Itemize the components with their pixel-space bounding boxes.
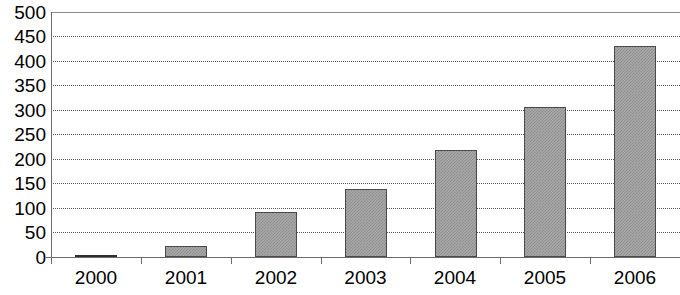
y-tick-label: 350 (2, 76, 46, 95)
gridline-450 (51, 36, 680, 37)
gridline-200 (51, 159, 680, 160)
bar-2004 (435, 150, 477, 257)
x-tick (590, 257, 591, 264)
y-tick-label: 500 (2, 3, 46, 22)
bar-2002 (255, 212, 297, 257)
x-tick (141, 257, 142, 264)
x-tick (231, 257, 232, 264)
x-tick-label-2006: 2006 (590, 267, 680, 288)
y-tick-label: 50 (2, 223, 46, 242)
gridline-500 (51, 12, 680, 13)
y-axis: 500 450 400 350 300 250 200 150 100 50 0 (0, 0, 46, 295)
x-tick-label-2004: 2004 (410, 267, 500, 288)
x-tick-label-2003: 2003 (321, 267, 410, 288)
y-tick-label: 400 (2, 52, 46, 71)
bar-2000 (75, 255, 117, 257)
y-tick-label: 200 (2, 150, 46, 169)
x-tick-label-2001: 2001 (141, 267, 231, 288)
y-tick-label: 450 (2, 27, 46, 46)
x-tick (321, 257, 322, 264)
x-tick (410, 257, 411, 264)
gridline-300 (51, 110, 680, 111)
bar-2001 (165, 246, 207, 257)
bar-2006 (614, 46, 656, 257)
bar-2003 (345, 189, 387, 257)
gridline-400 (51, 61, 680, 62)
x-tick (500, 257, 501, 264)
y-tick-label: 300 (2, 101, 46, 120)
x-tick-label-2000: 2000 (51, 267, 141, 288)
y-axis-line (51, 12, 52, 258)
y-tick-label: 100 (2, 199, 46, 218)
x-axis-line (51, 257, 680, 258)
plot-area: 2000 2001 2002 2003 2004 2005 2006 (51, 0, 680, 295)
y-tick-label: 0 (2, 248, 46, 267)
gridline-250 (51, 134, 680, 135)
bar-2005 (524, 107, 566, 257)
x-tick-label-2005: 2005 (500, 267, 590, 288)
bar-chart: 500 450 400 350 300 250 200 150 100 50 0 (0, 0, 680, 295)
x-tick (51, 257, 52, 264)
x-tick-label-2002: 2002 (231, 267, 321, 288)
gridline-150 (51, 183, 680, 184)
y-tick-label: 150 (2, 174, 46, 193)
gridline-350 (51, 85, 680, 86)
y-tick-label: 250 (2, 125, 46, 144)
